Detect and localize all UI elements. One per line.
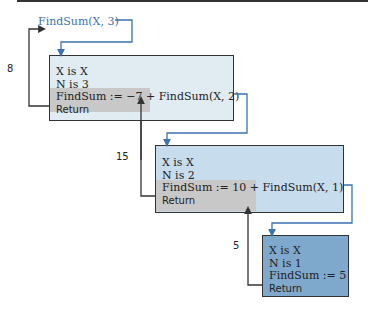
arrows-layer xyxy=(0,0,368,315)
return-arrow-icon xyxy=(29,29,49,106)
call-arrow-icon xyxy=(61,20,132,53)
call-arrow-icon xyxy=(167,94,247,143)
call-arrow-icon xyxy=(272,185,352,233)
return-arrow-icon xyxy=(141,120,155,196)
return-arrow-icon xyxy=(248,210,262,285)
